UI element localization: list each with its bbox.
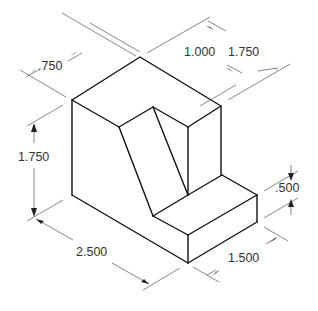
dim-label-overall-length: 2.500 — [76, 245, 107, 259]
dimension-overall-height: 1.750 — [18, 105, 63, 221]
part-outline — [72, 57, 257, 263]
dimension-top-left-depth: .750 — [20, 13, 136, 97]
dimension-step-height: .500 — [264, 165, 299, 218]
dim-label-top-right-depth: 1.750 — [228, 45, 259, 59]
dim-label-top-slot-width: 1.000 — [184, 45, 215, 59]
dimension-step-width: 1.500 — [193, 227, 288, 282]
dim-label-step-height: .500 — [275, 181, 299, 195]
isometric-drawing: .750 1.000 1.750 1.750 2.500 — [0, 0, 318, 311]
dimension-top-right: 1.000 1.750 — [90, 17, 290, 106]
dim-label-overall-height: 1.750 — [18, 150, 49, 164]
dimension-overall-length: 2.500 — [36, 219, 180, 290]
dim-label-top-left-depth: .750 — [38, 59, 62, 73]
dim-label-step-width: 1.500 — [228, 251, 259, 265]
